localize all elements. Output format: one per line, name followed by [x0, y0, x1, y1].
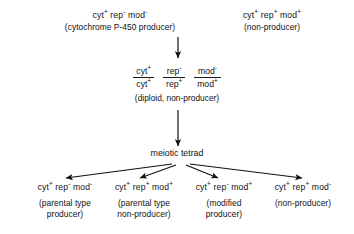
fraction-rep: rep- rep+ — [163, 66, 185, 89]
product-4-description: (non-producer) — [252, 198, 354, 209]
parent-right-rep-allele: + — [274, 8, 278, 15]
product-2-cyt-allele: + — [126, 180, 130, 187]
product-4-cyt-allele: + — [286, 180, 290, 187]
parent-left-rep-allele: - — [123, 8, 125, 15]
arrow-tetrad-to-product-2 — [140, 165, 176, 178]
fraction-cyt-denominator-gene: cyt — [136, 79, 147, 89]
fraction-mod-numerator-allele: - — [215, 64, 217, 71]
fraction-mod-denominator-gene: mod — [197, 79, 214, 89]
parent-left-description: (cytochrome P-450 producer) — [40, 22, 200, 33]
product-4-mod-allele: - — [329, 180, 331, 187]
product-2-rep-allele: + — [146, 180, 150, 187]
genetics-cross-diagram: cyt+ rep- mod- (cytochrome P-450 produce… — [0, 0, 354, 234]
fraction-mod-denominator: mod+ — [194, 77, 220, 89]
parent-right-description: (non-producer) — [212, 22, 332, 33]
fraction-rep-numerator-gene: rep — [167, 66, 179, 76]
parent-right-cyt-allele: + — [254, 8, 258, 15]
parent-right-genotype: cyt+ rep+ mod+ — [212, 10, 332, 21]
fraction-rep-denominator: rep+ — [163, 77, 185, 89]
product-3-description-line2: producer) — [168, 209, 280, 220]
fraction-cyt-numerator-allele: + — [147, 64, 151, 71]
fraction-cyt-denominator-allele: + — [147, 77, 151, 84]
fraction-cyt: cyt+ cyt+ — [133, 66, 154, 89]
fraction-cyt-numerator: cyt+ — [133, 66, 154, 77]
fraction-rep-denominator-allele: + — [178, 77, 182, 84]
arrow-tetrad-to-product-3 — [186, 165, 218, 178]
parent-right-mod-allele: + — [297, 8, 301, 15]
fraction-mod-numerator-gene: mod — [198, 66, 215, 76]
fraction-rep-numerator: rep- — [163, 66, 185, 77]
product-4-genotype: cyt+ rep+ mod- — [252, 182, 354, 193]
product-4-rep-allele: + — [305, 180, 309, 187]
diploid-genotype-block: cyt+ cyt+ rep- rep+ mod- mod+ (diploid, … — [0, 60, 354, 103]
meiotic-tetrad-label: meiotic tetrad — [0, 148, 354, 158]
fraction-mod-denominator-allele: + — [214, 77, 218, 84]
product-3-rep-allele: - — [226, 180, 228, 187]
fraction-mod-numerator: mod- — [194, 66, 220, 77]
arrow-tetrad-to-product-1 — [66, 164, 172, 178]
fraction-cyt-denominator: cyt+ — [133, 77, 154, 89]
product-1-cyt-allele: + — [49, 180, 53, 187]
fraction-rep-denominator-gene: rep — [166, 79, 178, 89]
fraction-cyt-numerator-gene: cyt — [136, 66, 147, 76]
product-1-rep-allele: - — [68, 180, 70, 187]
parent-left-cyt-allele: + — [104, 8, 108, 15]
fraction-rep-numerator-allele: - — [179, 64, 181, 71]
parent-left-mod-allele: - — [145, 8, 147, 15]
parent-left-genotype: cyt+ rep- mod- — [40, 10, 200, 21]
arrow-tetrad-to-product-4 — [190, 164, 302, 178]
product-3-cyt-allele: + — [207, 180, 211, 187]
diploid-fraction-row: cyt+ cyt+ rep- rep+ mod- mod+ — [133, 66, 220, 89]
fraction-mod: mod- mod+ — [194, 66, 220, 89]
product-4-description-line1: (non-producer) — [252, 198, 354, 209]
diploid-caption: (diploid, non-producer) — [0, 93, 354, 103]
